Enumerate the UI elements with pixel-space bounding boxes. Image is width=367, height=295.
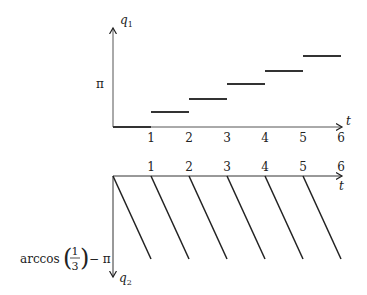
tick-label: 3 [223,160,231,174]
bottom-x-axis-label: t [339,179,344,193]
sawtooth-segment [265,176,303,259]
bottom-plot: 1 2 3 4 5 6 t q2 arccos ( 1 3 ) − π [20,160,345,287]
tick-label: 4 [261,131,269,145]
pi-label: π [96,77,104,91]
top-y-axis-label: q1 [120,13,133,29]
sawtooth-segment [113,176,151,259]
tick-label: 6 [337,160,345,174]
tick-label: 2 [185,131,193,145]
tick-label: 5 [299,131,307,145]
bottom-tick-labels: 1 2 3 4 5 6 [147,160,345,174]
tick-label: 1 [147,131,155,145]
frac-denominator: 3 [72,260,79,273]
tick-label: 5 [299,160,307,174]
top-x-axis-label: t [346,114,351,128]
minus-pi: − π [89,252,111,266]
arccos-label: arccos ( 1 3 ) − π [20,244,111,273]
arccos-text: arccos [20,252,60,266]
sawtooth-segment [227,176,265,259]
bottom-y-axis-label: q2 [119,271,132,287]
frac-numerator: 1 [72,245,79,258]
top-tick-labels: 1 2 3 4 5 6 [147,131,345,145]
tick-label: 2 [185,160,193,174]
sawtooth-segment [303,176,341,259]
paren-right: ) [80,244,89,272]
sawtooth-segment [151,176,189,259]
top-plot: q1 t π 1 2 3 4 5 6 [96,13,351,145]
tick-label: 3 [223,131,231,145]
staircase-steps [113,56,341,127]
tick-label: 6 [337,131,345,145]
tick-label: 1 [147,160,155,174]
sawtooth-lines [113,176,341,259]
diagram-canvas: q1 t π 1 2 3 4 5 6 1 2 3 4 5 6 [0,0,367,295]
tick-label: 4 [261,160,269,174]
sawtooth-segment [189,176,227,259]
